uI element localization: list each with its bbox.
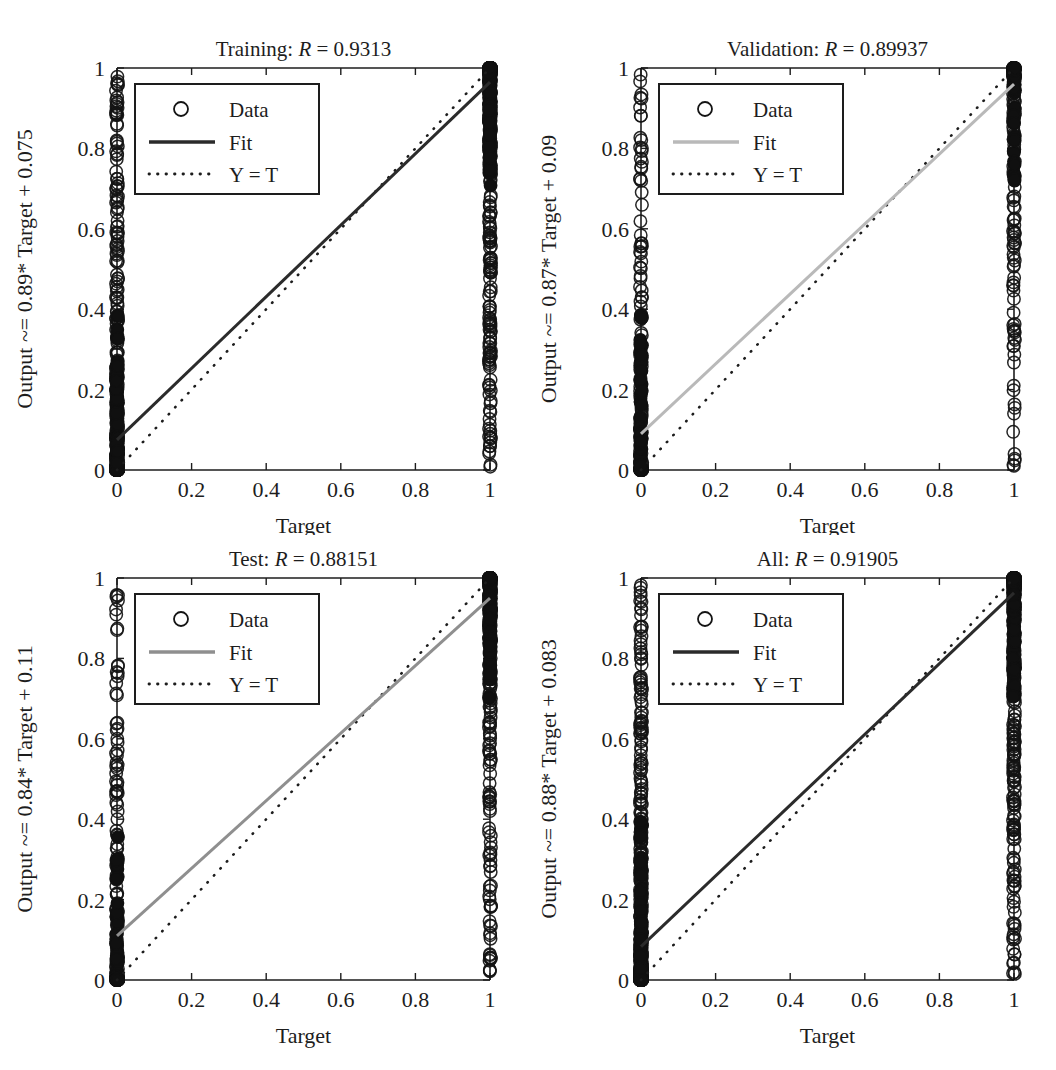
data-point — [483, 164, 495, 176]
data-point — [483, 116, 495, 128]
data-point — [485, 86, 497, 98]
data-point — [110, 375, 122, 387]
y-axis-label: Output ~= 0.88* Target + 0.083 — [536, 639, 561, 918]
y-tick-label: 0 — [618, 458, 629, 483]
plot-all: All: R = 0.9190500.20.40.60.8100.20.40.6… — [536, 547, 1021, 1048]
y-tick-label: 0.4 — [78, 807, 106, 832]
data-point — [110, 854, 122, 866]
y-tick-label: 0.4 — [602, 807, 630, 832]
y-axis-label: Output ~= 0.89* Target + 0.075 — [12, 129, 37, 408]
x-tick-label: 0 — [636, 477, 647, 502]
legend-label-data: Data — [753, 608, 793, 632]
y-tick-label: 0.8 — [78, 136, 106, 161]
legend: DataFitY = T — [659, 84, 843, 194]
data-point — [110, 407, 122, 419]
legend: DataFitY = T — [135, 594, 319, 704]
legend-label-identity: Y = T — [229, 163, 278, 187]
y-tick-label: 0.6 — [78, 727, 106, 752]
data-point — [111, 360, 123, 372]
y-tick-label: 0.8 — [602, 136, 630, 161]
legend-label-data: Data — [229, 98, 269, 122]
y-axis-label: Output ~= 0.84* Target + 0.11 — [12, 645, 37, 913]
plot-training: Training: R = 0.931300.20.40.60.8100.20.… — [12, 37, 497, 535]
panel-test: Test: R = 0.8815100.20.40.60.8100.20.40.… — [0, 516, 528, 1070]
y-tick-label: 0.4 — [78, 297, 106, 322]
data-point — [484, 152, 496, 164]
chart-title: All: R = 0.91905 — [757, 547, 898, 571]
panel-validation-svg: Validation: R = 0.8993700.20.40.60.8100.… — [528, 0, 1056, 535]
legend: DataFitY = T — [135, 84, 319, 194]
panel-training: Training: R = 0.931300.20.40.60.8100.20.… — [0, 0, 528, 535]
data-point — [112, 332, 124, 344]
data-point — [484, 129, 496, 141]
data-point — [1008, 624, 1020, 636]
chart-title: Test: R = 0.88151 — [229, 547, 378, 571]
y-tick-label: 0.2 — [602, 888, 630, 913]
data-point — [1009, 635, 1021, 647]
data-point — [484, 668, 496, 680]
data-point — [1008, 664, 1020, 676]
plot-test: Test: R = 0.8815100.20.40.60.8100.20.40.… — [12, 547, 497, 1048]
y-tick-label: 0.6 — [78, 217, 106, 242]
x-tick-label: 0.2 — [178, 987, 206, 1012]
y-tick-label: 0.8 — [78, 646, 106, 671]
data-point — [634, 831, 646, 843]
y-tick-label: 1 — [618, 566, 629, 591]
data-point — [636, 199, 648, 211]
legend-box — [135, 84, 319, 194]
data-point — [634, 856, 646, 868]
legend-label-identity: Y = T — [753, 673, 802, 697]
x-tick-label: 0.8 — [926, 987, 954, 1012]
x-tick-label: 0.8 — [402, 987, 430, 1012]
y-tick-label: 0.4 — [602, 297, 630, 322]
data-point — [1008, 173, 1020, 185]
y-tick-label: 0.2 — [78, 378, 106, 403]
x-tick-label: 0 — [112, 987, 123, 1012]
legend-box — [659, 84, 843, 194]
chart-title: Validation: R = 0.89937 — [727, 37, 928, 61]
data-point — [111, 445, 123, 457]
regression-plot-figure: Training: R = 0.931300.20.40.60.8100.20.… — [0, 0, 1056, 1070]
legend: DataFitY = T — [659, 594, 843, 704]
data-point — [483, 103, 495, 115]
x-axis-label: Target — [276, 1023, 331, 1048]
legend-label-fit: Fit — [229, 131, 253, 155]
legend-label-identity: Y = T — [753, 163, 802, 187]
panel-all-svg: All: R = 0.9190500.20.40.60.8100.20.40.6… — [528, 516, 1056, 1070]
svg-text:Training: R = 0.9313: Training: R = 0.9313 — [216, 37, 392, 61]
y-tick-label: 0.2 — [78, 888, 106, 913]
data-point — [634, 885, 646, 897]
data-point — [112, 310, 124, 322]
x-tick-label: 1 — [485, 987, 496, 1012]
legend-label-data: Data — [753, 98, 793, 122]
data-point — [634, 815, 646, 827]
panel-all: All: R = 0.9190500.20.40.60.8100.20.40.6… — [528, 516, 1056, 1070]
chart-title: Training: R = 0.9313 — [216, 37, 392, 61]
data-point — [112, 831, 124, 843]
plot-validation: Validation: R = 0.8993700.20.40.60.8100.… — [536, 37, 1021, 535]
x-tick-label: 0.8 — [926, 477, 954, 502]
y-tick-label: 0.6 — [602, 727, 630, 752]
data-point — [484, 179, 496, 191]
legend-box — [135, 594, 319, 704]
legend-label-fit: Fit — [753, 641, 777, 665]
y-tick-label: 0 — [94, 968, 105, 993]
svg-text:All: R = 0.91905: All: R = 0.91905 — [757, 547, 898, 571]
y-tick-label: 1 — [94, 566, 105, 591]
data-point — [1008, 159, 1020, 171]
data-point — [635, 869, 647, 881]
legend-label-fit: Fit — [753, 131, 777, 155]
x-tick-label: 0 — [112, 477, 123, 502]
panel-test-svg: Test: R = 0.8815100.20.40.60.8100.20.40.… — [0, 516, 528, 1070]
svg-text:Validation: R = 0.89937: Validation: R = 0.89937 — [727, 37, 928, 61]
y-axis-label: Output ~= 0.87* Target + 0.09 — [536, 135, 561, 403]
x-tick-label: 0.4 — [252, 987, 280, 1012]
panel-validation: Validation: R = 0.8993700.20.40.60.8100.… — [528, 0, 1056, 535]
x-tick-label: 0.6 — [851, 987, 879, 1012]
data-point — [1007, 426, 1019, 438]
x-tick-label: 0.2 — [702, 987, 730, 1012]
data-point — [484, 613, 496, 625]
legend-label-data: Data — [229, 608, 269, 632]
data-point — [1008, 117, 1020, 129]
data-point — [110, 953, 122, 965]
